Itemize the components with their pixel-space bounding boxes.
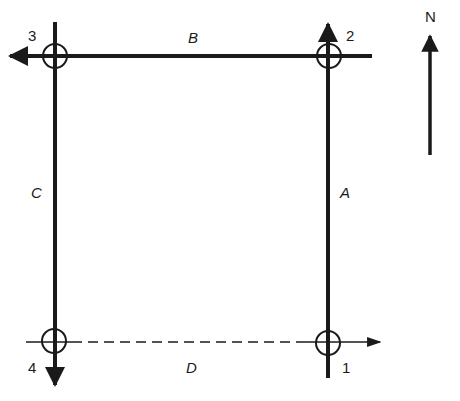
line-c-label: C: [31, 184, 42, 201]
north-label: N: [425, 8, 436, 25]
line-a-label: A: [339, 184, 350, 201]
station-1-label: 1: [342, 359, 350, 376]
line-d-label: D: [186, 359, 197, 376]
traverse-diagram: 1 2 3 4 A B C D N: [0, 0, 460, 401]
station-3-label: 3: [28, 27, 36, 44]
station-2-label: 2: [346, 27, 354, 44]
station-4-label: 4: [28, 359, 36, 376]
line-b-label: B: [188, 29, 198, 46]
